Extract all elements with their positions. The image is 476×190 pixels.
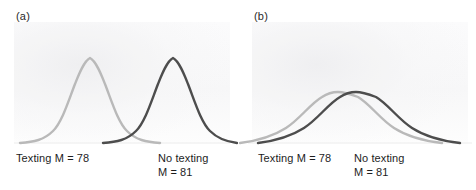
panel-a-caption-no-texting: No texting M = 81	[158, 152, 209, 179]
panel-a-texting-curve	[20, 58, 160, 143]
panel-b-caption-texting: Texting M = 78	[258, 152, 331, 166]
panel-b-no-texting-curve	[258, 92, 460, 143]
panel-b-texting-curve	[240, 92, 442, 143]
panel-b-caption-no-texting: No texting M = 81	[354, 152, 405, 179]
panel-a-caption-texting: Texting M = 78	[16, 152, 89, 166]
panel-a: (a) Texting M = 78 No texting M = 81	[0, 0, 238, 190]
distribution-comparison-figure: (a) Texting M = 78 No texting M = 81 (b)…	[0, 0, 476, 190]
panel-a-no-texting-curve	[103, 58, 237, 143]
panel-b: (b) Texting M = 78 No texting M = 81	[238, 0, 476, 190]
